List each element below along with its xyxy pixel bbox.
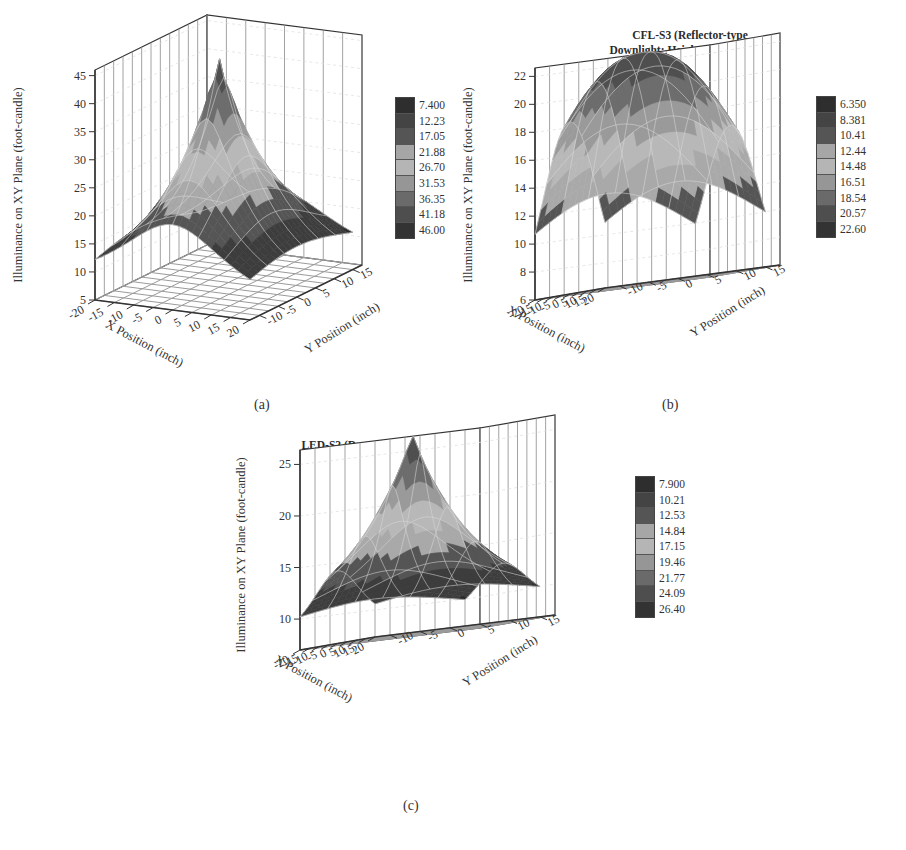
colorbar-swatch [817,222,835,238]
colorbar-swatch [817,191,835,207]
colorbar-label: 10.21 [659,494,685,506]
plot-area [535,33,780,300]
colorbar-label: 26.40 [659,603,685,615]
z-tick-label: 22 [514,69,526,83]
colorbar-label: 7.400 [419,99,445,111]
colorbar-label: 14.48 [840,160,866,172]
colorbar-swatch [636,539,654,555]
colorbar-swatch [817,175,835,191]
colorbar-swatch [636,524,654,540]
x-tick-label: -15 [85,305,106,325]
z-tick-label: 18 [514,125,526,139]
chart-panel-a: INC-S4 (Reflector-type Downlight: Height… [0,0,450,420]
colorbar-swatch [396,207,414,223]
z-tick-label: 20 [279,509,291,523]
colorbar-swatches-b [816,96,836,238]
surface-plot-a: 51015202530354045-20-15-10-505101520-10-… [0,0,450,420]
plot-area [300,415,555,650]
colorbar-label: 22.60 [840,223,866,235]
z-tick-label: 40 [74,97,86,111]
z-tick-label: 8 [520,265,526,279]
colorbar-swatch [396,176,414,192]
colorbar-swatch [396,98,414,114]
y-axis-title: Y Position (inch) [302,299,382,356]
colorbar-label: 21.77 [659,572,685,584]
colorbar-label: 31.53 [419,177,445,189]
colorbar-label: 8.381 [840,114,866,126]
colorbar-label: 41.18 [419,208,445,220]
z-tick-label: 20 [514,97,526,111]
colorbar-swatch [636,602,654,618]
caption-c: (c) [403,798,419,814]
colorbar-swatches-c [635,476,655,618]
colorbar-swatch [817,159,835,175]
colorbar-swatch [396,160,414,176]
z-tick-label: 14 [514,181,526,195]
colorbar-label: 10.41 [840,129,866,141]
colorbar-swatch [636,555,654,571]
z-tick-label: 12 [514,209,526,223]
z-axis-title: Illuminance on XY Plane (foot-candle) [461,87,475,282]
x-tick-label: 10 [185,317,202,335]
z-tick-label: 25 [279,457,291,471]
colorbar-label: 17.05 [419,130,445,142]
colorbar-label: 17.15 [659,540,685,552]
x-tick-label: 20 [224,322,241,340]
z-tick-label: 30 [74,153,86,167]
colorbar-swatch [636,477,654,493]
y-tick-label: 15 [358,264,375,282]
colorbar-swatch [636,508,654,524]
colorbar-swatch [396,114,414,130]
colorbar-swatch [817,144,835,160]
colorbar-swatch [817,206,835,222]
y-tick-label: -5 [283,302,298,319]
colorbar-label: 18.54 [840,192,866,204]
y-axis-title: Y Position (inch) [460,632,540,689]
colorbar-label: 24.09 [659,587,685,599]
z-tick-label: 15 [279,561,291,575]
colorbar-label: 12.44 [840,145,866,157]
z-axis-title: Illuminance on XY Plane (foot-candle) [234,457,248,652]
x-tick-label: 5 [171,315,183,330]
surface-plot-b: 6810121416182022-20-15-10-505101520-10-5… [450,0,906,420]
y-tick-label: 10 [339,273,356,291]
colorbar-swatch [817,113,835,129]
plot-area [95,15,362,320]
colorbar-swatch [817,97,835,113]
colorbar-label: 6.350 [840,98,866,110]
z-tick-label: 16 [514,153,526,167]
x-tick-label: 15 [205,320,222,338]
colorbar-label: 19.46 [659,556,685,568]
colorbar-label: 7.900 [659,478,685,490]
colorbar-label: 12.23 [419,115,445,127]
surface-plot-c: 10152025-20-15-10-505101520-10-5051015Il… [225,425,685,850]
colorbar-swatch [396,145,414,161]
colorbar-swatch [396,129,414,145]
chart-panel-b: CFL-S3 (Reflector-type Downlight: Height… [450,0,906,420]
z-tick-label: 15 [74,237,86,251]
x-tick-label: 0 [152,312,164,327]
colorbar-label: 26.70 [419,161,445,173]
z-tick-label: 25 [74,181,86,195]
colorbar-swatches-a [395,97,415,239]
x-tick-label: -5 [129,310,144,327]
colorbar-label: 46.00 [419,224,445,236]
chart-panel-c: LED-S2 (Downlight: Height = 30.5 inches)… [225,425,685,850]
z-tick-label: 45 [74,69,86,83]
z-tick-label: 10 [514,237,526,251]
z-tick-label: 20 [74,209,86,223]
colorbar-swatch [636,571,654,587]
z-tick-label: 10 [279,612,291,626]
colorbar-label: 12.53 [659,509,685,521]
x-axis-title: X Position (inch) [103,317,186,370]
z-axis-title: Illuminance on XY Plane (foot-candle) [11,87,25,282]
y-tick-label: 0 [302,295,314,310]
y-axis-title: Y Position (inch) [687,283,767,340]
colorbar-swatch [636,586,654,602]
colorbar-label: 16.51 [840,176,866,188]
z-tick-label: 35 [74,125,86,139]
colorbar-swatch [396,223,414,239]
colorbar-label: 36.35 [419,193,445,205]
y-tick-label: 5 [320,285,332,300]
z-tick-label: 10 [74,265,86,279]
